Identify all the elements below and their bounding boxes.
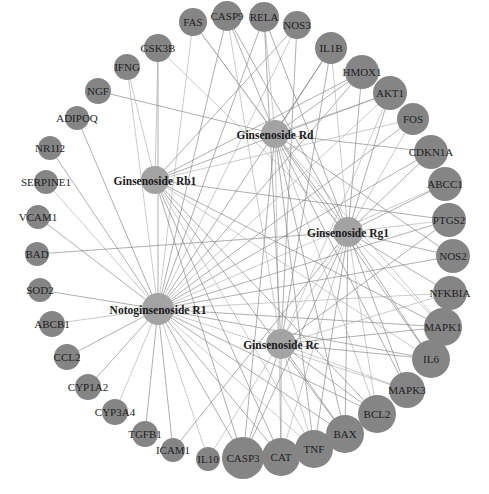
edge-r1-cyp3a4 — [115, 309, 158, 412]
target-node-label: CYP1A2 — [68, 381, 108, 393]
edge-r1-nos3 — [158, 25, 297, 309]
compound-node-layer: Ginsenoside RdGinsenoside Rb1Ginsenoside… — [110, 120, 390, 359]
target-node-rela[interactable]: RELA — [249, 2, 279, 32]
target-node-label: MAPK1 — [424, 321, 461, 333]
target-node-abcb1[interactable]: ABCB1 — [34, 311, 69, 337]
target-node-label: AKT1 — [376, 87, 404, 99]
edge-rd-cat — [275, 134, 281, 457]
edge-r1-rela — [158, 17, 264, 309]
target-node-casp9[interactable]: CASP9 — [210, 1, 244, 31]
target-node-label: IL1B — [319, 42, 342, 54]
target-node-label: GSK3B — [141, 42, 176, 54]
target-node-ifng[interactable]: IFNG — [114, 54, 140, 80]
target-node-label: IL6 — [423, 353, 439, 365]
target-node-cat[interactable]: CAT — [262, 438, 300, 476]
compound-node-rg1[interactable]: Ginsenoside Rg1 — [307, 217, 389, 247]
target-node-label: CYP3A4 — [95, 406, 136, 418]
target-node-label: SERPINE1 — [21, 176, 71, 188]
target-node-label: BAD — [25, 248, 48, 260]
edge-r1-nr1i2 — [50, 148, 158, 309]
target-node-label: VCAM1 — [19, 211, 58, 223]
target-node-label: IFNG — [114, 61, 140, 73]
target-node-akt1[interactable]: AKT1 — [373, 76, 407, 110]
target-node-label: NFKBIA — [430, 287, 471, 299]
target-node-nr1i2[interactable]: NR1I2 — [35, 136, 65, 160]
target-node-il1b[interactable]: IL1B — [315, 32, 347, 64]
target-node-nfkbia[interactable]: NFKBIA — [430, 276, 471, 310]
target-node-fas[interactable]: FAS — [179, 8, 207, 36]
target-node-nos3[interactable]: NOS3 — [283, 11, 311, 39]
target-node-layer: FASCASP9RELANOS3IL1BHMOX1AKT1FOSCDKN1AAB… — [19, 1, 471, 479]
edge-rb1-hmox1 — [155, 72, 362, 180]
target-node-label: ABCB1 — [34, 318, 69, 330]
compound-node-label: Ginsenoside Rc — [243, 339, 319, 351]
target-node-nos2[interactable]: NOS2 — [436, 239, 470, 273]
compound-node-label: Ginsenoside Rb1 — [114, 175, 197, 187]
target-node-serpine1[interactable]: SERPINE1 — [21, 170, 71, 194]
target-node-bad[interactable]: BAD — [25, 242, 49, 266]
target-node-tnf[interactable]: TNF — [295, 430, 333, 468]
target-node-label: RELA — [250, 11, 279, 23]
edge-r1-serpine1 — [46, 182, 158, 309]
target-node-cyp3a4[interactable]: CYP3A4 — [95, 399, 136, 425]
network-diagram: FASCASP9RELANOS3IL1BHMOX1AKT1FOSCDKN1AAB… — [0, 0, 489, 494]
target-node-label: TGFB1 — [128, 428, 162, 440]
target-node-label: NOS2 — [439, 250, 467, 262]
compound-node-label: Ginsenoside Rg1 — [307, 227, 389, 240]
target-node-label: BCL2 — [364, 408, 391, 420]
target-node-bcl2[interactable]: BCL2 — [358, 395, 396, 433]
compound-node-rb1[interactable]: Ginsenoside Rb1 — [114, 166, 197, 194]
target-node-sod2[interactable]: SOD2 — [26, 278, 54, 302]
target-node-label: FOS — [403, 113, 423, 125]
target-node-gsk3b[interactable]: GSK3B — [141, 34, 176, 62]
edge-rg1-il6 — [348, 232, 431, 359]
target-node-label: MAPK3 — [388, 384, 426, 396]
target-node-label: NGF — [87, 85, 109, 97]
target-node-label: CAT — [271, 451, 292, 463]
target-node-adipoq[interactable]: ADIPOQ — [56, 106, 98, 130]
target-node-label: HMOX1 — [342, 66, 381, 78]
target-node-label: ICAM1 — [156, 444, 190, 456]
target-node-label: CASP3 — [226, 452, 260, 464]
target-node-cdkn1a[interactable]: CDKN1A — [409, 135, 454, 169]
target-node-casp3[interactable]: CASP3 — [222, 437, 264, 479]
target-node-il6[interactable]: IL6 — [412, 340, 450, 378]
target-node-label: NR1I2 — [35, 142, 65, 154]
target-node-label: BAX — [333, 428, 356, 440]
compound-node-rc[interactable]: Ginsenoside Rc — [243, 329, 319, 359]
target-node-label: CCL2 — [54, 351, 81, 363]
target-node-ccl2[interactable]: CCL2 — [54, 344, 81, 370]
target-node-il10[interactable]: IL10 — [196, 447, 220, 471]
target-node-fos[interactable]: FOS — [397, 103, 429, 135]
edge-rb1-bcl2 — [155, 180, 377, 414]
target-node-cyp1a2[interactable]: CYP1A2 — [68, 374, 108, 400]
edge-r1-cdkn1a — [158, 152, 431, 309]
target-node-label: NOS3 — [283, 19, 311, 31]
target-node-label: CASP9 — [210, 10, 244, 22]
edge-rc-rela — [264, 17, 281, 344]
target-node-label: TNF — [304, 443, 325, 455]
compound-node-label: Notoginsenoside R1 — [110, 304, 207, 317]
edge-rb1-il6 — [155, 180, 431, 359]
edge-r1-tgfb1 — [145, 309, 158, 434]
edge-rg1-fos — [348, 119, 413, 232]
target-node-abcc1[interactable]: ABCC1 — [427, 167, 462, 201]
target-node-ptgs2[interactable]: PTGS2 — [432, 203, 466, 237]
edge-rg1-nfkbia — [348, 232, 450, 293]
target-node-label: FAS — [183, 16, 202, 28]
target-node-label: IL10 — [197, 453, 219, 465]
edge-rb1-gsk3b — [155, 48, 158, 180]
edge-rg1-mapk1 — [348, 232, 443, 327]
target-node-vcam1[interactable]: VCAM1 — [19, 205, 58, 229]
target-node-label: ADIPOQ — [56, 112, 98, 124]
target-node-label: ABCC1 — [427, 178, 462, 190]
edge-rb1-cat — [155, 180, 281, 457]
edge-rd-bax — [275, 134, 345, 434]
compound-node-label: Ginsenoside Rd — [236, 129, 314, 141]
target-node-icam1[interactable]: ICAM1 — [156, 438, 190, 462]
target-node-mapk3[interactable]: MAPK3 — [388, 372, 426, 408]
target-node-label: SOD2 — [26, 284, 54, 296]
target-node-label: CDKN1A — [409, 146, 454, 158]
target-node-ngf[interactable]: NGF — [85, 78, 111, 104]
network-canvas: FASCASP9RELANOS3IL1BHMOX1AKT1FOSCDKN1AAB… — [0, 0, 489, 494]
